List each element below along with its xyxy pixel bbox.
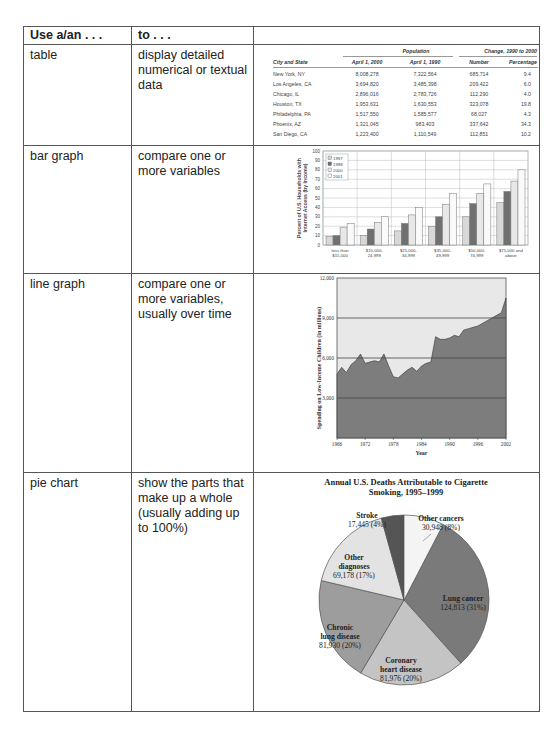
table-cell: 68,027 xyxy=(459,111,499,117)
table-cell: 10.2 xyxy=(499,131,531,137)
column-divider xyxy=(131,27,132,711)
table-cell: 685,714 xyxy=(459,71,499,77)
table-cell: 2,783,726 xyxy=(399,91,451,97)
table-cell: 6.0 xyxy=(499,81,531,87)
column-divider xyxy=(253,27,254,711)
svg-text:Percent of U.S. Households wit: Percent of U.S. Households withInternet … xyxy=(296,158,308,238)
svg-text:0: 0 xyxy=(317,243,320,248)
svg-text:74,999: 74,999 xyxy=(470,253,484,258)
table-cell: 112,290 xyxy=(459,91,499,97)
table-cell: 209,422 xyxy=(459,81,499,87)
svg-text:$15,000: $15,000 xyxy=(332,253,348,258)
table-cell: Philadelphia, PA xyxy=(273,111,333,117)
svg-text:50: 50 xyxy=(315,196,321,201)
svg-text:6,000: 6,000 xyxy=(322,355,334,361)
table-cell: San Diego, CA xyxy=(273,131,333,137)
col-2000: April 1, 2000 xyxy=(343,59,391,65)
table-cell: 19.8 xyxy=(499,101,531,107)
header-to: to . . . xyxy=(138,28,171,43)
svg-text:100: 100 xyxy=(312,149,320,154)
svg-text:10: 10 xyxy=(315,233,321,238)
table-cell: 3,485,398 xyxy=(399,81,451,87)
svg-text:30: 30 xyxy=(315,214,321,219)
table-cell: 1,110,549 xyxy=(399,131,451,137)
svg-text:40: 40 xyxy=(315,205,321,210)
group-header-population: Population xyxy=(366,48,466,54)
table-cell: 7,322,564 xyxy=(399,71,451,77)
group-header-change: Change, 1990 to 2000 xyxy=(465,48,537,54)
svg-text:80: 80 xyxy=(315,167,321,172)
pie-chart: Annual U.S. Deaths Attributable to Cigar… xyxy=(273,475,538,710)
svg-text:1997: 1997 xyxy=(333,156,343,161)
svg-text:Stroke17,445 (4%): Stroke17,445 (4%) xyxy=(348,511,386,529)
table-cell: 9.4 xyxy=(499,71,531,77)
table-cell: 2,896,016 xyxy=(343,91,391,97)
line-graph: 3,0006,0009,00012,0001966197219781984199… xyxy=(273,275,538,470)
table-cell: 337,642 xyxy=(459,121,499,127)
table-cell: 1,630,553 xyxy=(399,101,451,107)
table-cell: 1,321,045 xyxy=(343,121,391,127)
table-cell: Phoenix, AZ xyxy=(273,121,333,127)
svg-text:1984: 1984 xyxy=(416,441,427,447)
svg-text:1972: 1972 xyxy=(360,441,371,447)
svg-text:2001: 2001 xyxy=(333,174,343,179)
bar-graph: 0102030405060708090100less than$15,000$1… xyxy=(273,148,538,271)
svg-text:90: 90 xyxy=(315,158,321,163)
row-line-use: line graph xyxy=(30,277,128,292)
svg-text:34,999: 34,999 xyxy=(402,253,416,258)
svg-text:12,000: 12,000 xyxy=(320,275,335,281)
table-cell: Chicago, IL xyxy=(273,91,333,97)
svg-text:1978: 1978 xyxy=(388,441,399,447)
row-divider xyxy=(24,145,539,146)
table-cell: 4.0 xyxy=(499,91,531,97)
row-divider xyxy=(24,472,539,473)
svg-text:Annual U.S. Deaths Attributabl: Annual U.S. Deaths Attributable to Cigar… xyxy=(324,477,488,497)
table-cell: Houston, TX xyxy=(273,101,333,107)
table-cell: 1,517,550 xyxy=(343,111,391,117)
table-cell: Los Angeles, CA xyxy=(273,81,333,87)
svg-text:49,999: 49,999 xyxy=(436,253,450,258)
svg-text:2000: 2000 xyxy=(333,168,343,173)
row-bar-to: compare one or more variables xyxy=(138,149,250,179)
svg-text:60: 60 xyxy=(315,186,321,191)
svg-text:1996: 1996 xyxy=(473,441,484,447)
svg-text:1966: 1966 xyxy=(332,441,343,447)
row-pie-use: pie chart xyxy=(30,476,128,491)
svg-text:Spending on Low-Income Childre: Spending on Low-Income Children (in mill… xyxy=(316,307,323,429)
svg-text:Year: Year xyxy=(416,450,428,456)
table-cell: 34.3 xyxy=(499,121,531,127)
table-cell: 3,694,820 xyxy=(343,81,391,87)
col-city: City and State xyxy=(273,59,308,65)
svg-text:20: 20 xyxy=(315,224,321,229)
row-bar-use: bar graph xyxy=(30,149,128,164)
table-cell: 983,403 xyxy=(399,121,451,127)
svg-text:70: 70 xyxy=(315,177,321,182)
row-pie-to: show the parts that make up a whole (usu… xyxy=(138,476,250,536)
row-divider xyxy=(24,44,539,45)
svg-text:Lung cancer124,813 (31%): Lung cancer124,813 (31%) xyxy=(440,594,486,612)
table-cell: 8,008,278 xyxy=(343,71,391,77)
table-cell: 1,953,631 xyxy=(343,101,391,107)
row-divider xyxy=(24,273,539,274)
header-use: Use a/an . . . xyxy=(30,28,102,43)
table-cell: 1,585,577 xyxy=(399,111,451,117)
col-1990: April 1, 1990 xyxy=(399,59,451,65)
svg-text:9,000: 9,000 xyxy=(322,315,334,321)
svg-text:1990: 1990 xyxy=(444,441,455,447)
row-table-to: display detailed numerical or textual da… xyxy=(138,48,250,93)
svg-text:1998: 1998 xyxy=(333,162,343,167)
table-cell: New York, NY xyxy=(273,71,333,77)
svg-text:24,999: 24,999 xyxy=(368,253,382,258)
example-data-table: Population Change, 1990 to 2000 City and… xyxy=(273,48,538,144)
svg-text:3,000: 3,000 xyxy=(322,395,334,401)
col-number: Number xyxy=(459,59,499,65)
col-percentage: Percentage xyxy=(499,59,537,65)
svg-text:Coronaryheart disease81,976 (2: Coronaryheart disease81,976 (20%) xyxy=(380,656,423,683)
table-cell: 112,851 xyxy=(459,131,499,137)
table-cell: 1,223,400 xyxy=(343,131,391,137)
svg-text:Other cancers30,948 (8%): Other cancers30,948 (8%) xyxy=(418,514,464,532)
svg-text:above: above xyxy=(505,253,517,258)
table-cell: 4.3 xyxy=(499,111,531,117)
table-cell: 323,078 xyxy=(459,101,499,107)
svg-text:2002: 2002 xyxy=(501,441,512,447)
